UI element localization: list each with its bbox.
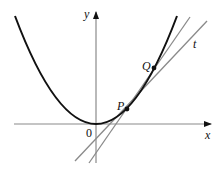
point-q-marker <box>152 66 157 71</box>
point-q-label: Q <box>142 59 151 73</box>
parabola-tangent-diagram: y x 0 P Q t <box>0 0 223 171</box>
tangent-line-label: t <box>193 37 197 51</box>
origin-label: 0 <box>86 126 92 140</box>
y-axis-label: y <box>83 7 90 21</box>
x-axis-label: x <box>204 128 211 142</box>
point-p-label: P <box>116 99 125 113</box>
secant-line-pq <box>89 17 190 163</box>
point-p-marker <box>125 107 130 112</box>
